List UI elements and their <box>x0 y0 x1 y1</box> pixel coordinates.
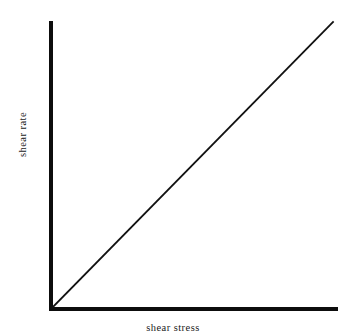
y-axis-title: shear rate <box>17 83 28 187</box>
y-axis-title-text: shear rate <box>17 112 28 157</box>
chart-figure: shear stress shear rate <box>0 0 346 336</box>
plot-area <box>0 0 346 336</box>
x-axis-title: shear stress <box>0 322 346 333</box>
x-axis-title-text: shear stress <box>146 322 200 333</box>
data-series-line <box>52 22 333 308</box>
